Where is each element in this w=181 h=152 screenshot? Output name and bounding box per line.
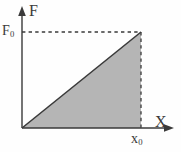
x-value-subscript: 0 xyxy=(138,137,142,147)
force-displacement-figure: F F0 X x0 xyxy=(0,0,181,152)
y-value-label-F0: F0 xyxy=(2,24,14,38)
graph-canvas xyxy=(0,0,181,152)
y-axis-arrowhead-icon xyxy=(18,6,26,16)
y-axis-label: F xyxy=(29,3,38,19)
x-axis-label: X xyxy=(155,114,167,130)
x-value-label-x0: x0 xyxy=(131,132,142,146)
y-value-subscript: 0 xyxy=(10,29,14,39)
